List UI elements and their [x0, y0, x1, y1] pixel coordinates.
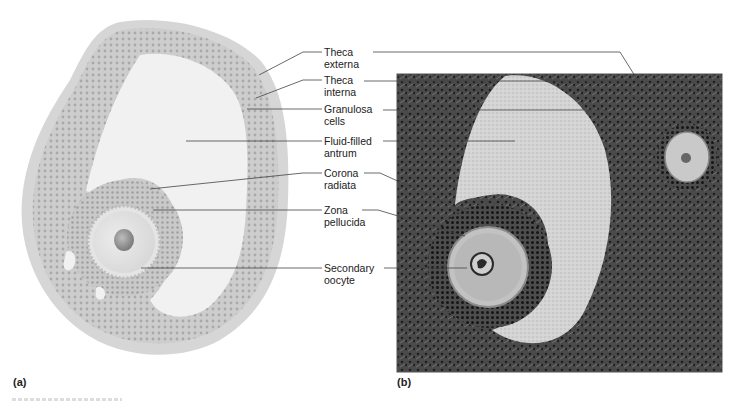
footer-rule: [12, 398, 122, 401]
illustration-panel-a: [0, 0, 732, 402]
micrograph-panel-b: [397, 74, 722, 372]
figure: Theca externa Theca interna Granulosa ce…: [0, 0, 732, 402]
label-fluid-filled-antrum: Fluid-filled antrum: [324, 135, 372, 159]
label-zona-pellucida: Zona pellucida: [324, 204, 365, 228]
panel-tag-b: (b): [397, 376, 411, 388]
label-corona-radiata: Corona radiata: [324, 167, 358, 191]
panel-tag-a: (a): [13, 376, 26, 388]
label-theca-interna: Theca interna: [324, 74, 356, 98]
label-theca-externa: Theca externa: [324, 46, 359, 70]
label-granulosa-cells: Granulosa cells: [324, 103, 372, 127]
label-secondary-oocyte: Secondary oocyte: [324, 262, 374, 286]
nucleus-shape: [114, 229, 134, 251]
